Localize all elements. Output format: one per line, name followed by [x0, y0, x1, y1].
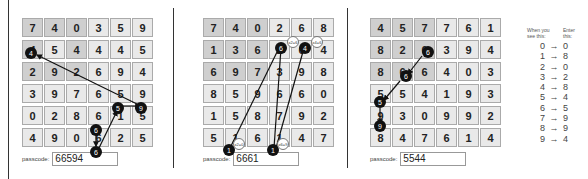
grid-cell: 1 [458, 128, 479, 147]
divider-line-1 [173, 8, 174, 168]
key-enter-digit: 0 [563, 62, 568, 72]
number-grid: 740359454445292694397659028615490625 [22, 18, 153, 147]
grid-cell: 4 [291, 128, 312, 147]
grid-cell: 9 [291, 62, 312, 81]
grid-cell: 4 [370, 18, 391, 37]
grid-cell: 6 [203, 62, 224, 81]
grid-cell: 2 [392, 40, 413, 59]
passcode-input[interactable]: 5544 [400, 152, 466, 166]
key-see-digit: 6 [527, 103, 545, 113]
grid-cell: 9 [44, 62, 65, 81]
hint-bubble: x6=9 [277, 138, 289, 150]
hint-bubble: x2=0 [233, 138, 245, 150]
path-node: 4 [299, 42, 311, 54]
key-see-digit: 2 [527, 62, 545, 72]
grid-cell: 7 [247, 62, 268, 81]
grid-cell: 6 [436, 128, 457, 147]
grid-cell: 9 [458, 40, 479, 59]
grid-cell: 3 [88, 18, 109, 37]
key-row: 5→4 [527, 92, 581, 102]
arrow-right-icon: → [545, 51, 563, 61]
grid-cell: 0 [313, 84, 334, 103]
arrow-right-icon: → [545, 92, 563, 102]
arrow-right-icon: → [545, 103, 563, 113]
path-node: 9 [374, 120, 386, 132]
passcode-input[interactable]: 6661 [233, 152, 299, 166]
grid-cell: 9 [44, 128, 65, 147]
grid-cell: 8 [66, 106, 87, 125]
key-enter-digit: 9 [563, 123, 568, 133]
key-enter-digit: 5 [563, 103, 568, 113]
path-node: 6 [90, 146, 102, 158]
grid-cell: 4 [414, 84, 435, 103]
grid-cell: 2 [110, 128, 131, 147]
key-row: 4→8 [527, 82, 581, 92]
number-grid: 457761826394866403554193930992847614 [370, 18, 501, 147]
key-row: 3→2 [527, 72, 581, 82]
arrow-right-icon: → [545, 82, 563, 92]
path-node: 5 [374, 96, 386, 108]
grid-cell: 5 [225, 106, 246, 125]
path-node: 6 [400, 70, 412, 82]
grid-cell: 7 [22, 18, 43, 37]
grid-cell: 8 [247, 106, 268, 125]
grid-cell: 4 [480, 40, 501, 59]
key-see-digit: 8 [527, 123, 545, 133]
grid-cell: 4 [88, 40, 109, 59]
grid-cell: 6 [88, 62, 109, 81]
grid-cell: 3 [225, 40, 246, 59]
left-border-line [8, 0, 9, 179]
grid-cell: 0 [414, 106, 435, 125]
grid-cell: 7 [414, 18, 435, 37]
grid-cell: 6 [291, 84, 312, 103]
grid-cell: 8 [313, 62, 334, 81]
grid-cell: 0 [66, 128, 87, 147]
passcode-input[interactable]: 66594 [52, 152, 118, 166]
key-enter-digit: 8 [563, 51, 568, 61]
arrow-right-icon: → [545, 123, 563, 133]
arrow-right-icon: → [545, 113, 563, 123]
path-node: 5 [112, 102, 124, 114]
passcode-label: passcode: [203, 156, 230, 162]
key-enter-digit: 8 [563, 82, 568, 92]
path-node: 6 [275, 42, 287, 54]
grid-cell: 3 [392, 106, 413, 125]
hint-bubble: x4=6 [311, 36, 323, 48]
path-node: 9 [135, 102, 147, 114]
grid-cell: 9 [458, 84, 479, 103]
panel-3: 457761826394866403554193930992847614 6 6… [370, 18, 501, 147]
key-enter-digit: 4 [563, 134, 568, 144]
grid-cell: 6 [414, 62, 435, 81]
arrow-right-icon: → [545, 134, 563, 144]
panel-2: 740268136264697398859660158792516147 1 6… [203, 18, 334, 147]
key-row: 1→8 [527, 51, 581, 61]
substitution-key: When you see this: Enter this: 0→01→82→0… [527, 27, 581, 144]
grid-cell: 2 [313, 106, 334, 125]
grid-cell: 6 [88, 106, 109, 125]
grid-cell: 9 [247, 84, 268, 103]
grid-cell: 9 [44, 84, 65, 103]
grid-cell: 4 [436, 62, 457, 81]
grid-cell: 7 [269, 106, 290, 125]
grid-cell: 5 [110, 18, 131, 37]
key-see-digit: 1 [527, 51, 545, 61]
key-enter-digit: 9 [563, 113, 568, 123]
grid-cell: 5 [132, 128, 153, 147]
grid-cell: 8 [203, 84, 224, 103]
path-node: 6 [422, 46, 434, 58]
grid-cell: 7 [203, 18, 224, 37]
grid-cell: 4 [110, 40, 131, 59]
grid-cell: 3 [480, 84, 501, 103]
key-see-digit: 9 [527, 134, 545, 144]
grid-cell: 1 [203, 40, 224, 59]
key-see-digit: 7 [527, 113, 545, 123]
grid-cell: 9 [291, 106, 312, 125]
grid-cell: 0 [66, 18, 87, 37]
passcode-row: passcode: 6661 [203, 152, 299, 166]
grid-cell: 2 [22, 62, 43, 81]
grid-cell: 9 [436, 106, 457, 125]
grid-cell: 5 [225, 84, 246, 103]
key-see-digit: 5 [527, 92, 545, 102]
grid-cell: 8 [370, 40, 391, 59]
key-row: 6→5 [527, 103, 581, 113]
